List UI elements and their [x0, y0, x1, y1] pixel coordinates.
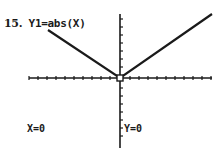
equation-label: 15. Y1=abs(X): [4, 17, 85, 30]
equation-text: Y1=abs(X): [29, 17, 86, 30]
problem-number: 15.: [4, 17, 22, 30]
trace-x-value: X=0: [27, 123, 45, 134]
trace-y-value: Y=0: [124, 123, 142, 134]
trace-cursor: [117, 75, 123, 81]
